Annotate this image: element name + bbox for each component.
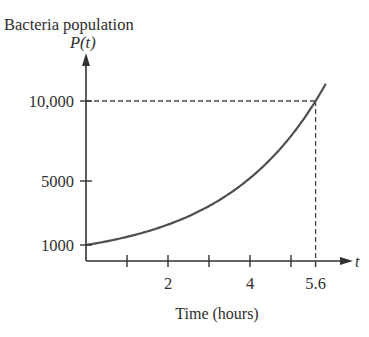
y-tick-label: 10,000 bbox=[29, 92, 74, 111]
x-axis-label: Time (hours) bbox=[175, 305, 258, 323]
x-tick-label: 4 bbox=[246, 274, 254, 293]
x-axis-var: t bbox=[355, 253, 360, 270]
x-axis-arrow-icon bbox=[340, 257, 353, 265]
y-tick-label: 1000 bbox=[41, 236, 74, 255]
bacteria-growth-chart: Bacteria population P(t) 1000500010,000 … bbox=[0, 0, 369, 337]
chart-title: Bacteria population bbox=[4, 15, 134, 34]
x-tick-label: 2 bbox=[164, 274, 172, 293]
y-ticks: 1000500010,000 bbox=[29, 92, 92, 255]
axes bbox=[82, 53, 353, 265]
y-axis-arrow-icon bbox=[82, 53, 90, 66]
dashed-guides bbox=[86, 101, 316, 261]
y-tick-label: 5000 bbox=[41, 172, 74, 191]
y-axis-label: P(t) bbox=[69, 33, 96, 52]
x-tick-label: 5.6 bbox=[305, 274, 326, 293]
population-curve bbox=[86, 84, 326, 245]
